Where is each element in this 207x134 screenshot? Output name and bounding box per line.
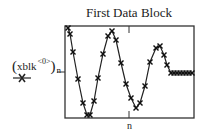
series-markers [66,26,195,118]
data-point-marker [134,106,139,111]
data-point-marker [110,29,115,34]
plot-area [0,0,207,134]
